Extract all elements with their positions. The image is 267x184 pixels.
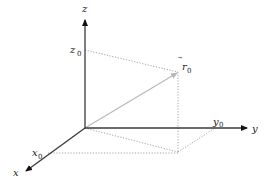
svg-text:0: 0 xyxy=(77,50,81,58)
svg-text:⃗: ⃗ xyxy=(178,56,182,59)
z-axis-label: z xyxy=(81,3,88,14)
projection-lines xyxy=(48,50,215,153)
vector-r0 xyxy=(85,73,177,128)
y-axis-label: y xyxy=(251,123,258,134)
svg-text:z: z xyxy=(69,44,76,55)
z0-to-r0-dotted xyxy=(85,50,178,72)
r0-label: r ⃗ 0 xyxy=(178,56,191,75)
svg-text:0: 0 xyxy=(38,153,42,161)
z0-label: z 0 xyxy=(69,44,81,58)
x0-label: x 0 xyxy=(32,147,42,161)
y0-label: y 0 xyxy=(212,116,223,129)
projection-to-y0-dotted xyxy=(178,128,215,152)
svg-text:0: 0 xyxy=(219,121,223,129)
svg-text:y: y xyxy=(212,116,219,127)
svg-text:0: 0 xyxy=(187,67,191,75)
origin-to-projection-dotted xyxy=(85,128,178,152)
axes xyxy=(26,20,247,171)
x-axis-label: x xyxy=(13,167,19,178)
coordinate-diagram: z y x z 0 y 0 x 0 r ⃗ 0 xyxy=(0,0,267,184)
